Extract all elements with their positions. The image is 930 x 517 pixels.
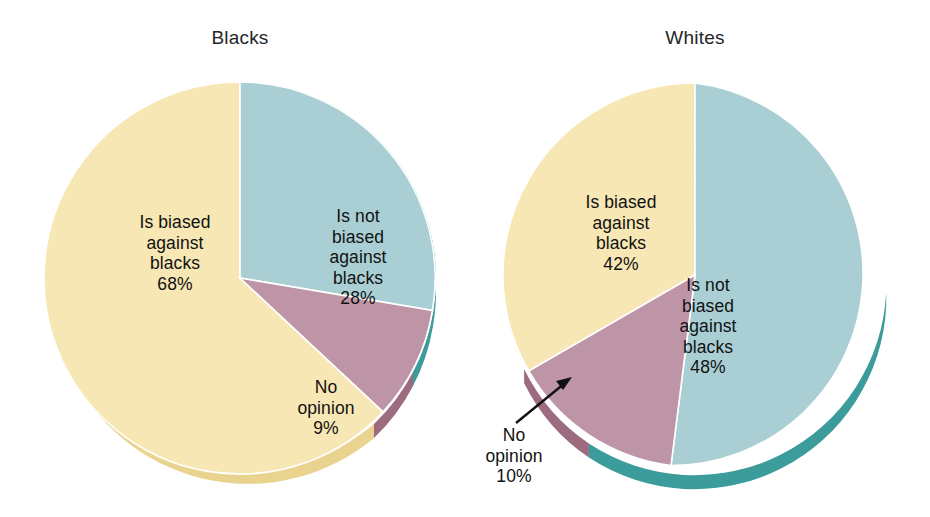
label-blacks-no-opinion-text: No opinion: [297, 377, 354, 417]
label-blacks-is-not-biased-text: Is not biased against blacks: [329, 206, 386, 287]
label-whites-is-not-biased-pct: 48%: [652, 357, 764, 377]
label-whites-no-opinion: No opinion 10%: [466, 405, 562, 507]
label-blacks-is-biased-pct: 68%: [110, 274, 240, 294]
pie-chart-figure: Blacks Whites: [0, 0, 930, 517]
label-blacks-is-biased-text: Is biased against blacks: [140, 212, 211, 273]
label-whites-no-opinion-text: No opinion: [485, 425, 542, 465]
label-blacks-is-not-biased-pct: 28%: [302, 288, 414, 308]
label-blacks-is-biased: Is biased against blacks 68%: [110, 192, 240, 315]
label-blacks-no-opinion-pct: 9%: [278, 418, 374, 438]
label-blacks-no-opinion: No opinion 9%: [278, 357, 374, 459]
label-whites-is-not-biased-text: Is not biased against blacks: [679, 275, 736, 356]
label-blacks-is-not-biased: Is not biased against blacks 28%: [302, 186, 414, 329]
label-whites-no-opinion-pct: 10%: [466, 466, 562, 486]
label-whites-is-biased-text: Is biased against blacks: [586, 192, 657, 253]
label-whites-is-not-biased: Is not biased against blacks 48%: [652, 255, 764, 398]
